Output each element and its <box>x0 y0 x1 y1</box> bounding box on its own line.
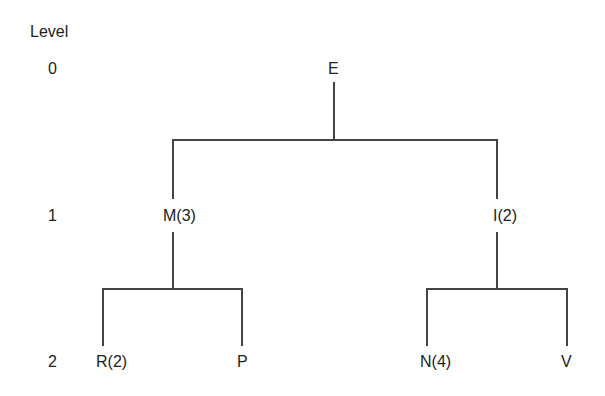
node-right-right: V <box>561 353 572 371</box>
node-right-left: N(4) <box>420 353 451 371</box>
node-right: I(2) <box>493 207 517 225</box>
node-left-right: P <box>237 353 248 371</box>
node-left-left: R(2) <box>96 353 127 371</box>
node-left: M(3) <box>163 207 196 225</box>
node-root: E <box>328 60 339 78</box>
tree-edges <box>0 0 605 396</box>
